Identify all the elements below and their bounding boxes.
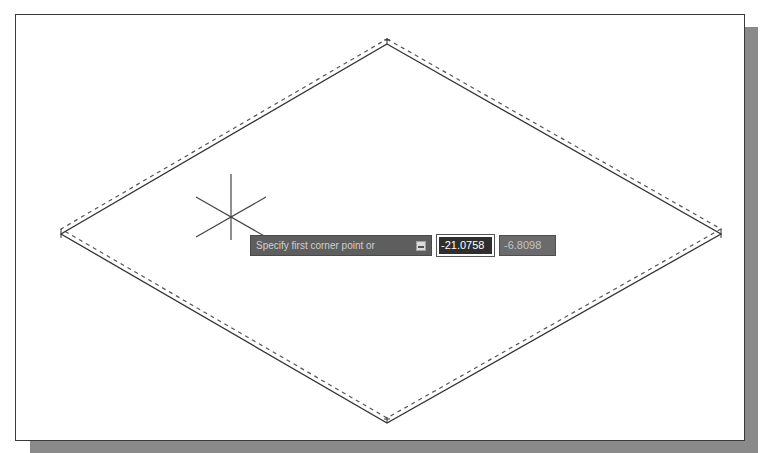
isometric-crosshair-icon	[196, 174, 266, 240]
dashed-isometric-rectangle	[61, 39, 721, 418]
drawing-canvas[interactable]	[0, 0, 764, 453]
solid-isometric-rectangle	[61, 44, 721, 423]
down-arrow-icon[interactable]	[416, 241, 426, 251]
screenshot-stage: Specify first corner point or -21.0758 -…	[0, 0, 764, 453]
dynamic-input-prompt: Specify first corner point or	[250, 235, 432, 256]
prompt-text: Specify first corner point or	[256, 240, 416, 251]
x-coordinate-input[interactable]: -21.0758	[437, 235, 494, 256]
vertex-markers	[61, 38, 721, 423]
y-coordinate-input[interactable]: -6.8098	[499, 235, 556, 256]
